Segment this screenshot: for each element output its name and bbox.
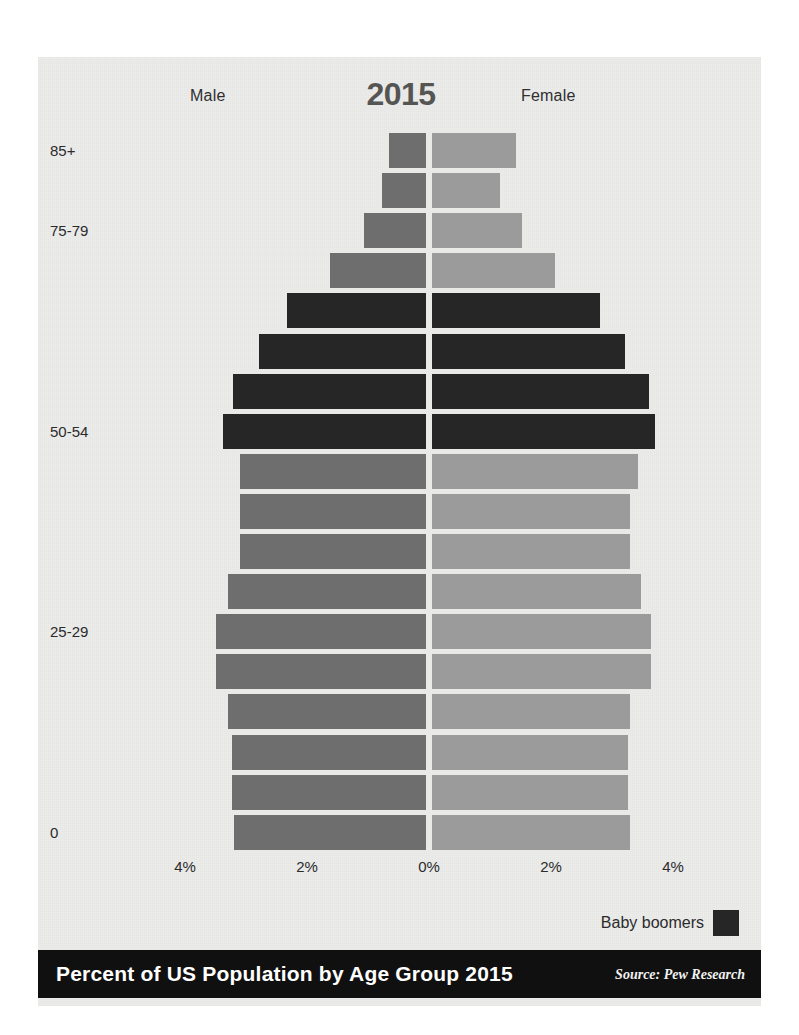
bar-male-70-74 — [330, 253, 426, 288]
pyramid-row — [38, 534, 761, 574]
legend-swatch-baby-boomers — [713, 910, 739, 936]
bar-female-80-84 — [432, 173, 500, 208]
legend: Baby boomers — [601, 910, 739, 936]
bar-male-60-64 — [259, 334, 426, 369]
bar-male-5-9 — [232, 775, 426, 810]
pyramid-row — [38, 574, 761, 614]
bar-male-75-79 — [364, 213, 426, 248]
female-side-label: Female — [521, 87, 576, 105]
bar-female-65-69 — [432, 293, 600, 328]
bar-male-65-69 — [287, 293, 426, 328]
pyramid-row — [38, 775, 761, 815]
pyramid-row — [38, 374, 761, 414]
pyramid-row — [38, 494, 761, 534]
bar-male-20-24 — [216, 654, 426, 689]
chart-panel: Male 2015 Female 85+75-7950-5425-290 4%2… — [38, 57, 761, 1006]
pyramid-row — [38, 173, 761, 213]
bar-male-25-29 — [216, 614, 426, 649]
y-axis-label-75-79: 75-79 — [50, 222, 88, 239]
bar-male-45-49 — [240, 454, 426, 489]
bar-female-50-54 — [432, 414, 655, 449]
bar-male-55-59 — [233, 374, 426, 409]
y-axis-label-25-29: 25-29 — [50, 623, 88, 640]
y-axis-label-85+: 85+ — [50, 142, 75, 159]
bar-female-55-59 — [432, 374, 649, 409]
pyramid-row: 25-29 — [38, 614, 761, 654]
bar-male-50-54 — [223, 414, 426, 449]
bar-male-30-34 — [228, 574, 426, 609]
pyramid-row — [38, 293, 761, 333]
bar-female-5-9 — [432, 775, 628, 810]
pyramid-row: 50-54 — [38, 414, 761, 454]
legend-label-baby-boomers: Baby boomers — [601, 914, 704, 932]
pyramid-row — [38, 654, 761, 694]
male-side-label: Male — [190, 87, 225, 105]
bar-female-25-29 — [432, 614, 651, 649]
bar-female-35-39 — [432, 534, 630, 569]
x-axis: 4%2%0%2%4% — [38, 858, 761, 888]
pyramid-row: 75-79 — [38, 213, 761, 253]
x-axis-tick-2: 0% — [399, 858, 459, 875]
bar-female-40-44 — [432, 494, 630, 529]
pyramid-row: 85+ — [38, 133, 761, 173]
footer-title: Percent of US Population by Age Group 20… — [56, 962, 513, 986]
bar-female-60-64 — [432, 334, 625, 369]
x-axis-tick-1: 2% — [277, 858, 337, 875]
bar-female-0-4 — [432, 815, 630, 850]
pyramid-plot-area: 85+75-7950-5425-290 — [38, 133, 761, 855]
chart-page: Male 2015 Female 85+75-7950-5425-290 4%2… — [0, 0, 799, 1035]
bar-female-20-24 — [432, 654, 651, 689]
pyramid-row: 0 — [38, 815, 761, 855]
bar-female-85+ — [432, 133, 516, 168]
y-axis-label-50-54: 50-54 — [50, 423, 88, 440]
pyramid-row — [38, 454, 761, 494]
chart-header: Male 2015 Female — [38, 57, 761, 119]
footer-bar: Percent of US Population by Age Group 20… — [38, 950, 761, 998]
x-axis-tick-4: 4% — [643, 858, 703, 875]
bar-female-45-49 — [432, 454, 638, 489]
pyramid-row — [38, 694, 761, 734]
bar-male-40-44 — [240, 494, 426, 529]
bar-male-10-14 — [232, 735, 426, 770]
pyramid-row — [38, 334, 761, 374]
x-axis-tick-3: 2% — [521, 858, 581, 875]
bar-male-0-4 — [234, 815, 426, 850]
bar-male-80-84 — [382, 173, 426, 208]
pyramid-row — [38, 735, 761, 775]
bar-female-30-34 — [432, 574, 641, 609]
bar-male-15-19 — [228, 694, 426, 729]
bar-female-75-79 — [432, 213, 522, 248]
y-axis-label-0: 0 — [50, 824, 58, 841]
bar-female-10-14 — [432, 735, 628, 770]
bar-male-35-39 — [240, 534, 426, 569]
x-axis-tick-0: 4% — [155, 858, 215, 875]
bar-female-70-74 — [432, 253, 555, 288]
footer-source: Source: Pew Research — [615, 967, 745, 983]
bar-male-85+ — [389, 133, 426, 168]
chart-year-title: 2015 — [346, 76, 456, 113]
pyramid-row — [38, 253, 761, 293]
bar-female-15-19 — [432, 694, 630, 729]
